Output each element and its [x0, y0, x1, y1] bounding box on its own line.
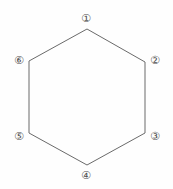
- hexagon-diagram: ① ② ③ ④ ⑤ ⑥: [0, 0, 173, 189]
- vertex-label-6: ⑥: [11, 55, 27, 68]
- vertex-label-5: ⑤: [11, 131, 27, 144]
- hexagon-canvas: [0, 0, 173, 189]
- hexagon-outline: [29, 29, 145, 165]
- vertex-label-3: ③: [147, 131, 163, 144]
- vertex-label-2: ②: [147, 55, 163, 68]
- vertex-label-4: ④: [78, 170, 94, 183]
- vertex-label-1: ①: [78, 13, 94, 26]
